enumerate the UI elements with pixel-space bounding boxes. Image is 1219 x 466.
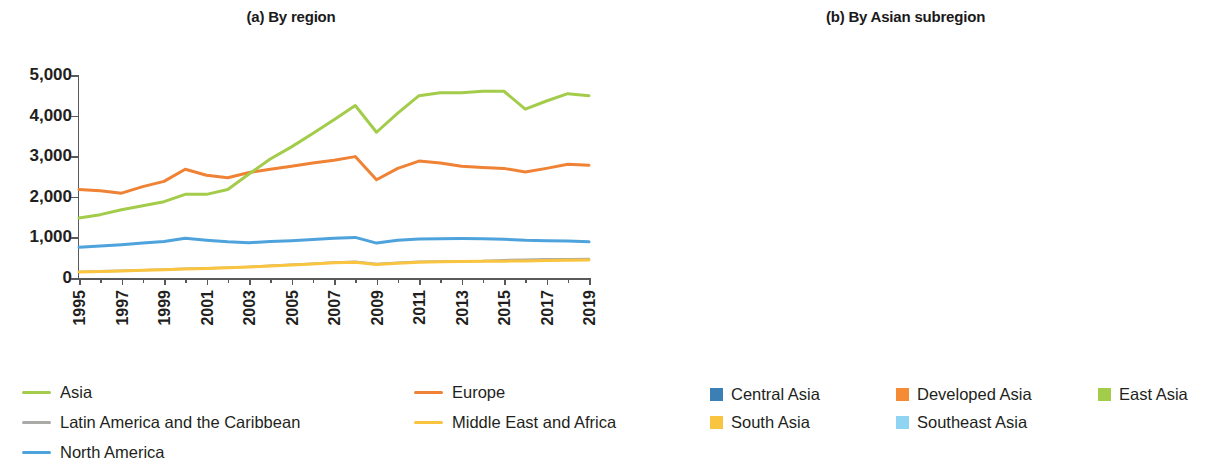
legend-label: Central Asia — [731, 386, 820, 403]
x-tick-label: 2007 — [326, 290, 344, 326]
x-tick-label: 2001 — [199, 290, 217, 326]
legend-label: Middle East and Africa — [452, 414, 616, 431]
legend-color-swatch-icon — [896, 416, 909, 429]
x-tick-label: 1999 — [156, 290, 174, 326]
y-axis-tick — [71, 116, 78, 118]
legend-line-swatch-icon — [22, 391, 51, 394]
legend-color-swatch-icon — [710, 388, 723, 401]
y-tick-label: 1,000 — [29, 227, 72, 247]
legend-label: South Asia — [731, 414, 810, 431]
legend-label: Europe — [452, 384, 505, 401]
y-axis-tick — [71, 75, 78, 77]
y-axis-tick — [71, 156, 78, 158]
line-series-asia — [79, 91, 589, 218]
legend-item-middle-east-and-africa[interactable]: Middle East and Africa — [414, 414, 616, 431]
y-tick-label: 3,000 — [29, 146, 72, 166]
figure: (a) By region 5,0004,0003,0002,0001,0000… — [0, 0, 1219, 466]
legend-label: Latin America and the Caribbean — [60, 414, 300, 431]
legend-item-asia[interactable]: Asia — [22, 384, 92, 401]
legend-item-east-asia[interactable]: East Asia — [1098, 386, 1188, 403]
legend-label: North America — [60, 444, 165, 461]
x-tick-label: 2009 — [369, 290, 387, 326]
legend-item-developed-asia[interactable]: Developed Asia — [896, 386, 1032, 403]
legend-label: Asia — [60, 384, 92, 401]
legend-line-swatch-icon — [414, 421, 443, 424]
legend-color-swatch-icon — [896, 388, 909, 401]
x-tick-label: 2005 — [284, 290, 302, 326]
line-series-north-america — [79, 237, 589, 247]
y-tick-label: 2,000 — [29, 187, 72, 207]
x-tick-label: 2019 — [581, 290, 599, 326]
line-series-europe — [79, 157, 589, 194]
legend-item-north-america[interactable]: North America — [22, 444, 165, 461]
panel-b-title: (b) By Asian subregion — [612, 8, 1219, 25]
legend-color-swatch-icon — [1098, 388, 1111, 401]
legend-line-swatch-icon — [22, 421, 51, 424]
x-tick-label: 2003 — [241, 290, 259, 326]
line-series-group — [79, 75, 593, 282]
legend-line-swatch-icon — [22, 451, 51, 454]
legend-item-south-asia[interactable]: South Asia — [710, 414, 810, 431]
legend-label: Developed Asia — [917, 386, 1032, 403]
y-axis-tick — [71, 197, 78, 199]
y-axis-tick — [71, 278, 78, 280]
legend-item-central-asia[interactable]: Central Asia — [710, 386, 820, 403]
panel-a-x-axis-labels: 1995199719992001200320052007200920112013… — [79, 288, 589, 378]
x-tick-label: 2017 — [539, 290, 557, 326]
legend-label: Southeast Asia — [917, 414, 1027, 431]
x-tick-label: 1997 — [114, 290, 132, 326]
x-tick-label: 2013 — [454, 290, 472, 326]
legend-item-southeast-asia[interactable]: Southeast Asia — [896, 414, 1027, 431]
legend-line-swatch-icon — [414, 391, 443, 394]
legend-label: East Asia — [1119, 386, 1188, 403]
line-series-middle-east-and-africa — [79, 260, 589, 272]
legend-color-swatch-icon — [710, 416, 723, 429]
panel-a-title: (a) By region — [0, 8, 612, 25]
y-tick-label: 4,000 — [29, 106, 72, 126]
y-axis-tick — [71, 237, 78, 239]
x-tick-label: 2015 — [496, 290, 514, 326]
y-tick-label: 5,000 — [29, 65, 72, 85]
x-tick-label: 1995 — [71, 290, 89, 326]
panel-a-plot-area — [79, 75, 589, 278]
x-tick-label: 2011 — [411, 290, 429, 325]
legend-item-europe[interactable]: Europe — [414, 384, 505, 401]
legend-item-latin-america-and-the-caribbean[interactable]: Latin America and the Caribbean — [22, 414, 300, 431]
